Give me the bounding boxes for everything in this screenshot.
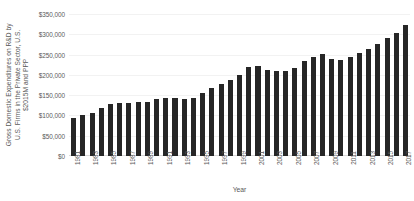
bar bbox=[90, 113, 95, 156]
bar bbox=[320, 54, 325, 156]
y-axis-title-line-3: $2015M and PPP bbox=[21, 24, 30, 147]
bar-slot bbox=[382, 14, 391, 156]
bar-slot bbox=[189, 14, 198, 156]
bar-slot bbox=[152, 14, 161, 156]
bar bbox=[228, 80, 233, 156]
y-axis-tick-label: $150,000 bbox=[39, 92, 65, 99]
bar bbox=[302, 61, 307, 156]
bar-slot bbox=[401, 14, 410, 156]
y-axis-tick-label: $300,000 bbox=[39, 31, 65, 38]
bar-slot bbox=[346, 14, 355, 156]
x-axis-title: Year bbox=[69, 186, 410, 193]
y-axis-title: Gross Domestic Expenditures on R&D by U.… bbox=[0, 0, 34, 170]
bar-slot bbox=[134, 14, 143, 156]
bar-slot bbox=[87, 14, 96, 156]
x-tick-slot bbox=[355, 157, 364, 185]
bar-slot bbox=[198, 14, 207, 156]
bar-slot bbox=[253, 14, 262, 156]
bar-slot bbox=[217, 14, 226, 156]
y-axis-tick-label: $350,000 bbox=[39, 11, 65, 18]
x-tick-slot: 2001 bbox=[253, 157, 262, 185]
bar-slot bbox=[78, 14, 87, 156]
x-tick-slot: 1987 bbox=[124, 157, 133, 185]
bar bbox=[338, 60, 343, 156]
bar bbox=[255, 66, 260, 156]
x-tick-slot: 1995 bbox=[198, 157, 207, 185]
bar bbox=[145, 102, 150, 156]
bar-slot bbox=[318, 14, 327, 156]
x-tick-slot bbox=[115, 157, 124, 185]
bar bbox=[394, 33, 399, 156]
x-tick-slot: 2007 bbox=[309, 157, 318, 185]
bar-slot bbox=[106, 14, 115, 156]
x-axis-tick-labels: 1981198319851987198919911993199519971999… bbox=[69, 157, 410, 185]
y-axis-tick-label: $200,000 bbox=[39, 71, 65, 78]
bar bbox=[265, 70, 270, 156]
bar bbox=[403, 25, 408, 156]
y-axis-tick-label: $50,000 bbox=[42, 132, 65, 139]
rd-expenditures-bar-chart: Gross Domestic Expenditures on R&D by U.… bbox=[0, 0, 414, 201]
y-axis-tick-label: $0 bbox=[58, 153, 65, 160]
x-tick-slot bbox=[97, 157, 106, 185]
bar bbox=[200, 93, 205, 156]
bar-slot bbox=[392, 14, 401, 156]
bar bbox=[385, 38, 390, 156]
x-tick-slot bbox=[244, 157, 253, 185]
bar-slot bbox=[124, 14, 133, 156]
y-axis-tick-label: $100,000 bbox=[39, 112, 65, 119]
x-tick-slot: 1991 bbox=[161, 157, 170, 185]
x-tick-slot: 1999 bbox=[235, 157, 244, 185]
bar-series bbox=[69, 14, 410, 156]
x-tick-slot bbox=[226, 157, 235, 185]
bar bbox=[209, 88, 214, 156]
bar-slot bbox=[263, 14, 272, 156]
x-tick-slot bbox=[134, 157, 143, 185]
x-tick-slot bbox=[336, 157, 345, 185]
x-tick-slot bbox=[78, 157, 87, 185]
x-tick-slot: 1983 bbox=[87, 157, 96, 185]
bar bbox=[117, 103, 122, 156]
x-tick-slot bbox=[207, 157, 216, 185]
x-tick-slot bbox=[318, 157, 327, 185]
x-tick-slot bbox=[170, 157, 179, 185]
bar-slot bbox=[115, 14, 124, 156]
bar bbox=[246, 67, 251, 156]
x-tick-slot: 1985 bbox=[106, 157, 115, 185]
x-tick-slot: 2017 bbox=[401, 157, 410, 185]
bar-slot bbox=[355, 14, 364, 156]
bar bbox=[154, 99, 159, 156]
bar bbox=[126, 103, 131, 156]
x-tick-slot: 2003 bbox=[272, 157, 281, 185]
bar bbox=[274, 71, 279, 156]
bar-slot bbox=[180, 14, 189, 156]
bar bbox=[136, 102, 141, 156]
x-tick-slot: 1981 bbox=[69, 157, 78, 185]
x-tick-slot: 1997 bbox=[217, 157, 226, 185]
bar bbox=[99, 108, 104, 156]
bar-slot bbox=[97, 14, 106, 156]
bar-slot bbox=[373, 14, 382, 156]
x-tick-slot bbox=[152, 157, 161, 185]
bar bbox=[348, 57, 353, 156]
bar bbox=[283, 71, 288, 156]
x-tick-slot: 2011 bbox=[346, 157, 355, 185]
bar-slot bbox=[170, 14, 179, 156]
x-tick-slot bbox=[392, 157, 401, 185]
y-axis-tick-labels: $0$50,000$100,000$150,000$200,000$250,00… bbox=[34, 0, 67, 201]
bar-slot bbox=[226, 14, 235, 156]
bar bbox=[108, 104, 113, 156]
bar-slot bbox=[309, 14, 318, 156]
bar-slot bbox=[272, 14, 281, 156]
x-tick-slot: 2015 bbox=[382, 157, 391, 185]
bar bbox=[375, 44, 380, 156]
bar bbox=[80, 115, 85, 156]
bar bbox=[182, 99, 187, 156]
bar-slot bbox=[327, 14, 336, 156]
bar-slot bbox=[281, 14, 290, 156]
x-tick-slot bbox=[281, 157, 290, 185]
y-axis-title-line-1: Gross Domestic Expenditures on R&D by bbox=[4, 24, 13, 147]
bar-slot bbox=[235, 14, 244, 156]
bar bbox=[172, 98, 177, 156]
bar bbox=[366, 49, 371, 156]
y-axis-title-line-2: U.S. Firms in the Private Sector, U.S. bbox=[13, 24, 22, 147]
